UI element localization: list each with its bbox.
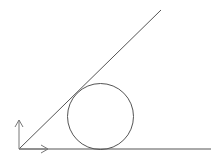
diagram-canvas	[0, 0, 221, 160]
background	[0, 0, 221, 160]
